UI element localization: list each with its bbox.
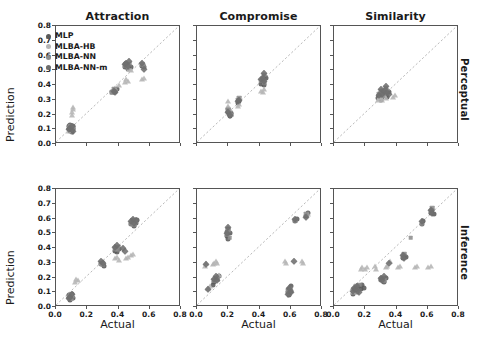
x-tick xyxy=(118,306,119,309)
y-tick xyxy=(330,218,333,219)
data-point xyxy=(130,251,136,256)
y-tick xyxy=(193,99,196,100)
data-point xyxy=(116,83,122,88)
legend-label: MLP xyxy=(55,32,73,40)
y-tick xyxy=(52,84,55,85)
x-tick-label: 0.4 xyxy=(389,310,402,319)
y-tick-label: 0.4 xyxy=(27,243,51,252)
y-tick-label: 0.3 xyxy=(27,257,51,266)
legend-item-mlba-nn-m: MLBA-NN-m xyxy=(46,63,107,74)
identity-line xyxy=(197,189,320,305)
x-tick xyxy=(427,306,428,309)
x-tick-label: 0.0 xyxy=(189,310,202,319)
x-tick xyxy=(118,143,119,146)
x-tick xyxy=(55,143,56,146)
y-tick-label: 0.5 xyxy=(27,228,51,237)
y-tick xyxy=(193,247,196,248)
x-tick xyxy=(427,143,428,146)
y-tick xyxy=(330,232,333,233)
x-axis-title-compromise: Actual xyxy=(196,318,321,331)
y-tick xyxy=(193,306,196,307)
y-tick xyxy=(52,306,55,307)
x-tick-label: 0.4 xyxy=(252,310,265,319)
y-tick xyxy=(330,203,333,204)
y-tick-label: 0.0 xyxy=(27,139,51,148)
x-tick xyxy=(196,306,197,309)
scatter-panel-inference-compromise xyxy=(196,188,321,306)
legend-label: MLBA-NN-m xyxy=(55,64,107,72)
y-tick xyxy=(193,232,196,233)
x-tick xyxy=(333,306,334,309)
data-point xyxy=(300,260,306,265)
x-tick-label: 0.6 xyxy=(142,310,155,319)
y-tick xyxy=(193,143,196,144)
y-tick xyxy=(52,247,55,248)
y-tick xyxy=(330,69,333,70)
x-tick-label: 0.6 xyxy=(420,310,433,319)
y-tick xyxy=(330,128,333,129)
x-tick xyxy=(259,306,260,309)
data-point xyxy=(214,260,220,265)
x-tick-label: 0.2 xyxy=(358,310,371,319)
y-axis-title-top: Prediction xyxy=(4,42,17,142)
y-tick xyxy=(52,262,55,263)
x-tick xyxy=(290,143,291,146)
y-axis-title-bottom: Prediction xyxy=(4,205,17,305)
x-tick xyxy=(458,143,459,146)
y-tick xyxy=(330,55,333,56)
row-label-perceptual: Perceptual xyxy=(459,58,470,121)
data-point xyxy=(116,257,122,262)
y-tick xyxy=(330,188,333,189)
scatter-panel-perceptual-compromise xyxy=(196,25,321,143)
x-tick xyxy=(396,306,397,309)
legend-label: MLBA-NN xyxy=(55,53,96,61)
x-tick xyxy=(333,143,334,146)
y-tick xyxy=(193,291,196,292)
x-tick-label: 0.0 xyxy=(48,310,61,319)
y-tick xyxy=(193,69,196,70)
y-tick xyxy=(52,128,55,129)
y-tick xyxy=(193,203,196,204)
x-tick-label: 0.2 xyxy=(80,310,93,319)
y-tick xyxy=(193,262,196,263)
scatter-panel-inference-attraction xyxy=(55,188,180,306)
x-tick xyxy=(227,143,228,146)
x-tick xyxy=(396,143,397,146)
y-tick xyxy=(330,143,333,144)
x-tick xyxy=(458,306,459,309)
y-tick-label: 0.2 xyxy=(27,272,51,281)
x-tick xyxy=(196,143,197,146)
x-tick xyxy=(227,306,228,309)
column-title-similarity: Similarity xyxy=(333,10,458,23)
y-tick xyxy=(330,247,333,248)
data-point xyxy=(75,278,81,283)
y-tick xyxy=(330,262,333,263)
y-tick xyxy=(193,40,196,41)
y-tick-label: 0.3 xyxy=(27,94,51,103)
y-tick xyxy=(52,143,55,144)
y-tick-label: 0.2 xyxy=(27,109,51,118)
y-tick-label: 0.6 xyxy=(27,213,51,222)
y-tick xyxy=(330,84,333,85)
legend-item-mlba-hb: MLBA-HB xyxy=(46,42,107,53)
identity-line xyxy=(334,26,457,142)
data-point xyxy=(125,78,131,83)
y-tick xyxy=(330,306,333,307)
y-tick xyxy=(52,232,55,233)
y-tick xyxy=(52,114,55,115)
y-tick xyxy=(193,84,196,85)
x-tick xyxy=(364,143,365,146)
data-point xyxy=(141,75,147,80)
x-tick xyxy=(321,306,322,309)
legend-item-mlba-nn: MLBA-NN xyxy=(46,52,107,63)
y-tick xyxy=(52,25,55,26)
data-point xyxy=(283,260,289,265)
scatter-panel-inference-similarity xyxy=(333,188,458,306)
legend-marker-triangle-icon xyxy=(46,44,51,49)
x-tick-label: 0.0 xyxy=(326,310,339,319)
y-tick-label: 0.8 xyxy=(27,21,51,30)
legend-marker-square-icon xyxy=(46,55,51,60)
y-tick xyxy=(52,291,55,292)
data-point xyxy=(373,266,379,271)
x-tick xyxy=(55,306,56,309)
